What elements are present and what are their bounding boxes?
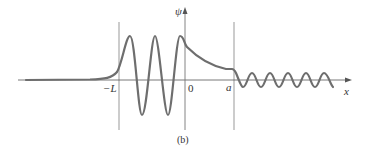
- y-axis-arrow-icon: [183, 7, 188, 14]
- x-axis-arrow-icon: [345, 78, 352, 83]
- tick-label-a: a: [226, 81, 232, 93]
- tick-label-minus-L: −L: [103, 82, 117, 94]
- figure-caption: (b): [177, 134, 189, 146]
- wavefunction-figure: ψ −L 0 a x (b): [0, 0, 368, 155]
- y-axis-label: ψ: [175, 5, 182, 17]
- wavefunction-curve: [26, 36, 333, 115]
- tick-label-zero: 0: [188, 82, 194, 94]
- x-axis-label: x: [343, 85, 349, 97]
- wavefunction-plot: ψ −L 0 a x (b): [0, 0, 368, 155]
